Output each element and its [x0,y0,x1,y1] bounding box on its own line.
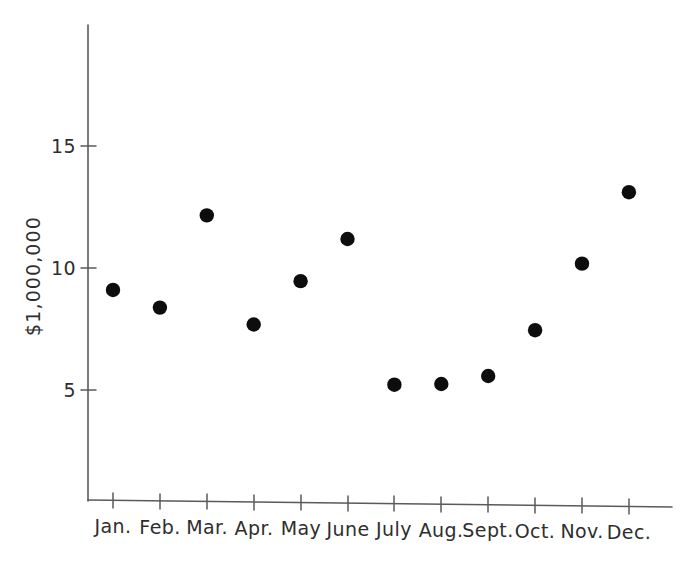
x-axis-line [88,500,672,507]
data-point [622,185,636,199]
x-tick-label-jan: Jan. [94,515,132,537]
x-tick-label-oct: Oct. [515,520,556,542]
x-tick-label-july: July [375,518,412,540]
y-tick-label-5: 5 [64,379,77,401]
data-point [153,300,167,314]
data-points-group [106,185,636,392]
data-point [340,232,354,246]
scatter-plot-figure: 15 10 5 $1,000,000 Jan. Feb. Mar. Apr. M… [0,0,697,563]
y-tick-label-15: 15 [51,135,76,157]
x-tick-label-june: June [326,518,370,540]
data-point [528,323,542,337]
x-tick-label-nov: Nov. [560,520,603,542]
data-point [387,378,401,392]
data-point [106,283,120,297]
x-tick-label-feb: Feb. [139,516,180,538]
y-tick-label-10: 10 [51,257,76,279]
x-tick-label-aug: Aug. [419,519,464,541]
data-point [247,317,261,331]
chart-canvas: 15 10 5 $1,000,000 Jan. Feb. Mar. Apr. M… [0,0,697,563]
x-tick-label-sept: Sept. [462,519,513,541]
x-tick-label-may: May [281,517,321,539]
x-tick-label-mar: Mar. [186,516,228,538]
data-point [293,274,307,288]
data-point [434,377,448,391]
data-point [481,369,495,383]
x-tick-label-dec: Dec. [607,521,651,543]
data-point [200,208,214,222]
data-point [575,256,589,270]
x-tick-label-apr: Apr. [235,517,274,539]
y-axis-title: $1,000,000 [22,216,44,336]
